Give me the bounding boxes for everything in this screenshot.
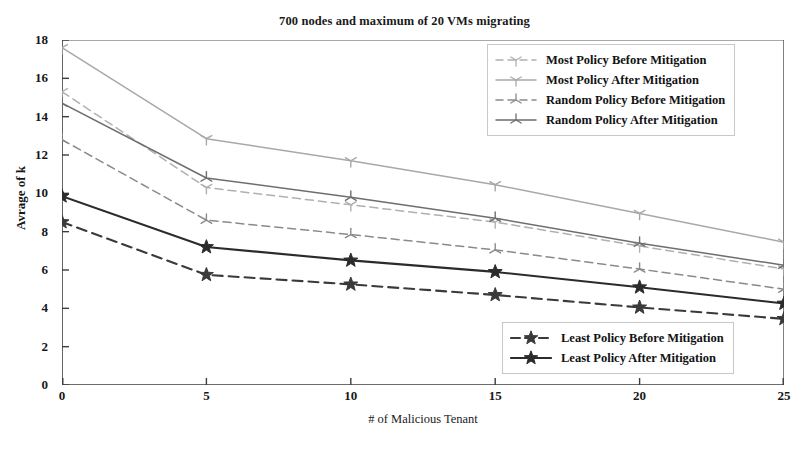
data-point-marker: [351, 158, 356, 161]
y-tick-label-0: 0: [42, 377, 49, 393]
y-tick-label-8: 8: [42, 224, 49, 240]
data-point-marker: [488, 265, 502, 278]
legend-item[interactable]: Random Policy After Mitigation: [495, 110, 725, 130]
y-tick-label-12: 12: [35, 147, 48, 163]
data-point-marker: [199, 267, 213, 280]
data-point-marker: [345, 235, 350, 238]
legend-label: Most Policy After Mitigation: [546, 72, 699, 88]
legend-item[interactable]: Most Policy After Mitigation: [495, 70, 725, 90]
legend-marker-icon: [495, 92, 537, 108]
x-tick-label-0: 0: [59, 388, 66, 404]
data-point-marker: [344, 277, 358, 290]
legend-item[interactable]: Random Policy Before Mitigation: [495, 90, 725, 110]
legend-top: Most Policy Before MitigationMost Policy…: [487, 44, 735, 136]
x-tick-label-25: 25: [778, 388, 791, 404]
y-tick-label-6: 6: [42, 262, 49, 278]
legend-bottom: Least Policy Before MitigationLeast Poli…: [502, 322, 734, 374]
legend-marker-icon: [495, 72, 537, 88]
legend-line-sample: [510, 350, 552, 366]
data-point-marker: [62, 140, 67, 143]
y-tick-label-18: 18: [35, 32, 48, 48]
legend-line-sample: [495, 92, 537, 108]
legend-marker-icon: [510, 350, 552, 366]
series-4: [62, 215, 784, 325]
data-point-marker: [640, 210, 645, 213]
legend-item[interactable]: Least Policy Before Mitigation: [510, 328, 724, 348]
x-tick-label-10: 10: [344, 388, 357, 404]
data-point-marker: [488, 288, 502, 301]
data-point-marker: [62, 215, 69, 228]
data-point-marker: [490, 250, 495, 253]
chart-title: 700 nodes and maximum of 20 VMs migratin…: [0, 14, 809, 29]
legend-label: Random Policy After Mitigation: [546, 112, 718, 128]
data-point-marker: [62, 89, 67, 92]
x-axis-tick-labels: 0510152025: [62, 388, 784, 410]
data-point-marker: [351, 202, 356, 205]
data-point-marker: [633, 280, 647, 293]
legend-line-sample: [510, 330, 552, 346]
legend-label: Random Policy Before Mitigation: [546, 92, 725, 108]
data-point-marker: [62, 45, 67, 48]
legend-marker-icon: [510, 330, 552, 346]
x-axis-label: # of Malicious Tenant: [62, 412, 784, 427]
y-tick-label-4: 4: [42, 300, 49, 316]
x-tick-label-5: 5: [203, 388, 210, 404]
data-point-marker: [633, 300, 647, 313]
legend-line-sample: [495, 52, 537, 68]
data-point-marker: [206, 184, 211, 187]
y-tick-label-10: 10: [35, 185, 48, 201]
legend-label: Least Policy Before Mitigation: [561, 330, 724, 346]
x-tick-label-15: 15: [489, 388, 502, 404]
y-tick-label-16: 16: [35, 70, 48, 86]
legend-marker-icon: [495, 112, 537, 128]
legend-line-sample: [495, 112, 537, 128]
data-point-marker: [634, 269, 639, 272]
data-point-marker: [201, 136, 206, 139]
data-point-marker: [62, 189, 69, 202]
legend-item[interactable]: Least Policy After Mitigation: [510, 348, 724, 368]
y-tick-label-14: 14: [35, 109, 48, 125]
data-point-marker: [495, 182, 500, 185]
legend-label: Most Policy Before Mitigation: [546, 52, 707, 68]
y-tick-label-2: 2: [42, 339, 49, 355]
legend-item[interactable]: Most Policy Before Mitigation: [495, 50, 725, 70]
data-point-marker: [201, 220, 206, 223]
data-point-marker: [199, 240, 213, 253]
data-point-marker: [345, 197, 350, 200]
legend-label: Least Policy After Mitigation: [561, 350, 716, 366]
x-tick-label-20: 20: [633, 388, 646, 404]
data-point-marker: [201, 178, 206, 181]
y-axis-tick-labels: 024681012141618: [0, 40, 56, 385]
chart-figure: 700 nodes and maximum of 20 VMs migratin…: [0, 0, 809, 449]
data-point-marker: [344, 253, 358, 266]
legend-marker-icon: [495, 52, 537, 68]
data-point-marker: [779, 289, 784, 292]
legend-line-sample: [495, 72, 537, 88]
data-point-marker: [206, 136, 211, 139]
